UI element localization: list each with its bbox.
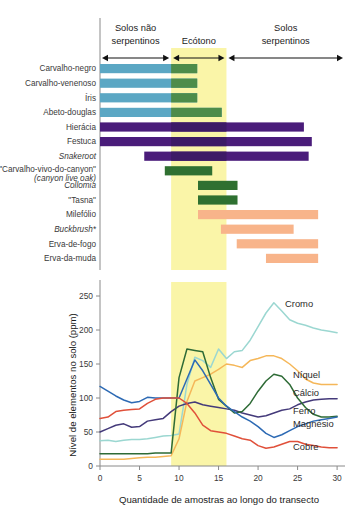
- serpentine-transect-figure: Solos nãoserpentinosEcótonoSolosserpenti…: [0, 0, 358, 511]
- species-label: "Carvalho-vivo-do-canyon"(canyon live oa…: [0, 165, 96, 183]
- species-label: Collomia: [64, 181, 96, 190]
- svg-text:Abeto-douglas: Abeto-douglas: [43, 108, 96, 117]
- x-tick-label: 30: [332, 473, 342, 483]
- series-label-níquel: Níquel: [293, 369, 320, 380]
- y-tick-label: 0: [88, 461, 93, 471]
- species-bar: [237, 239, 318, 248]
- species-bar: [198, 210, 318, 219]
- svg-text:Milefólio: Milefólio: [66, 210, 96, 219]
- svg-text:Collomia: Collomia: [64, 181, 96, 190]
- species-bar: [100, 79, 197, 88]
- x-tick-label: 20: [253, 473, 263, 483]
- species-label: "Tasna": [68, 196, 96, 205]
- figure-container: Solos nãoserpentinosEcótonoSolosserpenti…: [0, 0, 358, 511]
- series-label-cálcio: Cálcio: [293, 387, 319, 398]
- species-bar: [100, 122, 304, 131]
- species-label: Snakeroot: [59, 152, 97, 161]
- svg-text:Solos: Solos: [274, 23, 298, 33]
- species-bar: [100, 93, 197, 102]
- species-bar: [165, 166, 212, 175]
- species-bar: [100, 64, 197, 73]
- series-label-magnésio: Magnésio: [293, 418, 334, 429]
- species-label: Festuca: [67, 137, 97, 146]
- series-label-cromo: Cromo: [285, 298, 313, 309]
- y-tick-label: 150: [79, 359, 93, 369]
- svg-text:serpentinos: serpentinos: [262, 36, 310, 46]
- svg-text:Erva-de-fogo: Erva-de-fogo: [49, 240, 97, 249]
- x-tick-label: 25: [293, 473, 303, 483]
- species-label: Erva-da-muda: [44, 254, 96, 263]
- species-labels: Carvalho-negroCarvalho-venenosoÍrisAbeto…: [0, 64, 97, 263]
- species-label: Milefólio: [66, 210, 96, 219]
- species-bar: [221, 225, 294, 234]
- zone-label-serpentine: Solosserpentinos: [262, 23, 310, 46]
- svg-text:Hierácia: Hierácia: [66, 123, 96, 132]
- y-axis-title: Nível de elementos no solo (ppm): [67, 313, 78, 456]
- svg-text:Ecótono: Ecótono: [182, 36, 216, 46]
- species-label: Erva-de-fogo: [49, 240, 97, 249]
- species-bar: [144, 152, 308, 161]
- series-label-cobre: Cobre: [293, 441, 319, 452]
- x-tick-label: 10: [174, 473, 184, 483]
- zone-label-non-serpentine: Solos nãoserpentinos: [112, 23, 160, 46]
- svg-text:Carvalho-venenoso: Carvalho-venenoso: [25, 79, 96, 88]
- svg-text:Erva-da-muda: Erva-da-muda: [44, 254, 96, 263]
- svg-text:Íris: Íris: [85, 93, 96, 103]
- zone-arrow-non-serpentine: [102, 55, 169, 61]
- svg-text:Festuca: Festuca: [67, 137, 97, 146]
- x-tick-label: 0: [98, 473, 103, 483]
- species-bar: [100, 108, 222, 117]
- species-bar: [266, 254, 318, 263]
- species-label: Íris: [85, 93, 96, 103]
- x-tick-label: 15: [214, 473, 224, 483]
- species-bar: [198, 181, 238, 190]
- y-tick-label: 250: [79, 291, 93, 301]
- svg-text:serpentinos: serpentinos: [112, 36, 160, 46]
- svg-text:"Tasna": "Tasna": [68, 196, 96, 205]
- species-bar: [100, 137, 312, 146]
- zone-arrow-serpentine: [228, 55, 343, 61]
- series-label-ferro: Ferro: [293, 405, 315, 416]
- svg-text:Carvalho-negro: Carvalho-negro: [40, 64, 97, 73]
- zone-labels: Solos nãoserpentinosEcótonoSolosserpenti…: [112, 23, 311, 46]
- x-tick-label: 5: [137, 473, 142, 483]
- x-axis-title: Quantidade de amostras ao longo do trans…: [119, 494, 319, 505]
- species-bar: [198, 195, 238, 204]
- species-label: Carvalho-negro: [40, 64, 97, 73]
- species-label: Abeto-douglas: [43, 108, 96, 117]
- svg-text:Buckbrush*: Buckbrush*: [54, 225, 97, 234]
- species-label: Carvalho-venenoso: [25, 79, 96, 88]
- svg-text:Solos não: Solos não: [115, 23, 156, 33]
- species-label: Buckbrush*: [54, 225, 97, 234]
- y-tick-label: 50: [84, 427, 94, 437]
- species-label: Hierácia: [66, 123, 96, 132]
- svg-text:Snakeroot: Snakeroot: [59, 152, 97, 161]
- zone-label-ecotone: Ecótono: [182, 36, 216, 46]
- y-tick-label: 100: [79, 393, 93, 403]
- y-tick-label: 200: [79, 325, 93, 335]
